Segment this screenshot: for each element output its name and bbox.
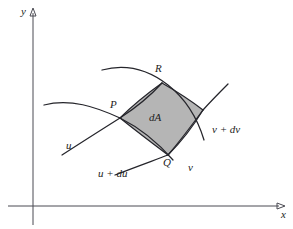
curve-label-v-plus-dv: v + dv [212,124,240,135]
curve-label-u: u [66,140,72,151]
x-axis-label: x [281,209,286,220]
curve-label-u-plus-du: u + du [98,168,127,179]
curve-label-v: v [188,162,193,173]
point-label-P: P [110,99,117,110]
y-axis-label: y [21,6,26,17]
area-element-shaded-region [120,83,203,155]
point-label-Q: Q [163,157,171,168]
figure-drawing [0,0,293,229]
figure-container: y x P R Q dA u u + du v v + dv [0,0,293,229]
area-element-label: dA [149,112,161,123]
point-label-R: R [155,63,162,74]
